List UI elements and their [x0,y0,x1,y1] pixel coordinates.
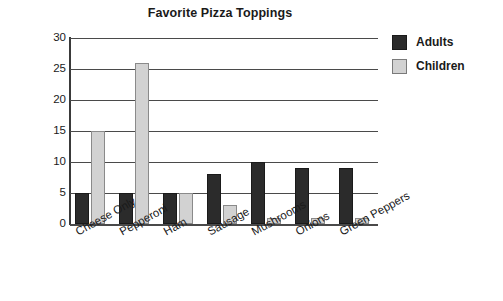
gridline [70,193,378,194]
bar-adults-sausage [207,174,222,224]
y-tick-label: 0 [40,218,66,230]
y-tick-label: 10 [40,156,66,168]
y-tick-label: 25 [40,63,66,75]
legend-item-adults[interactable]: Adults [392,30,500,54]
bar-adults-green-peppers [339,168,354,224]
gridline [70,38,378,39]
gridline [70,69,378,70]
y-axis-tick-labels: 051015202530 [38,38,66,224]
y-tick-label: 15 [40,125,66,137]
legend-swatch-adults-icon [392,35,407,50]
legend-swatch-children-icon [392,59,407,74]
bar-adults-onions [295,168,310,224]
bar-adults-mushrooms [251,162,266,224]
legend-label: Adults [416,36,453,48]
legend-item-children[interactable]: Children [392,54,500,78]
gridline [70,131,378,132]
gridline [70,100,378,101]
bar-children-pepperoni [135,63,150,224]
y-tick-label: 5 [40,187,66,199]
chart-title: Favorite Pizza Toppings [0,6,440,20]
gridline [70,162,378,163]
plot-area [70,38,378,224]
legend-label: Children [416,60,465,72]
pizza-toppings-bar-chart: Favorite Pizza Toppings 051015202530 Che… [0,0,503,301]
y-tick-label: 30 [40,32,66,44]
chart-legend: AdultsChildren [392,30,500,78]
y-tick-label: 20 [40,94,66,106]
